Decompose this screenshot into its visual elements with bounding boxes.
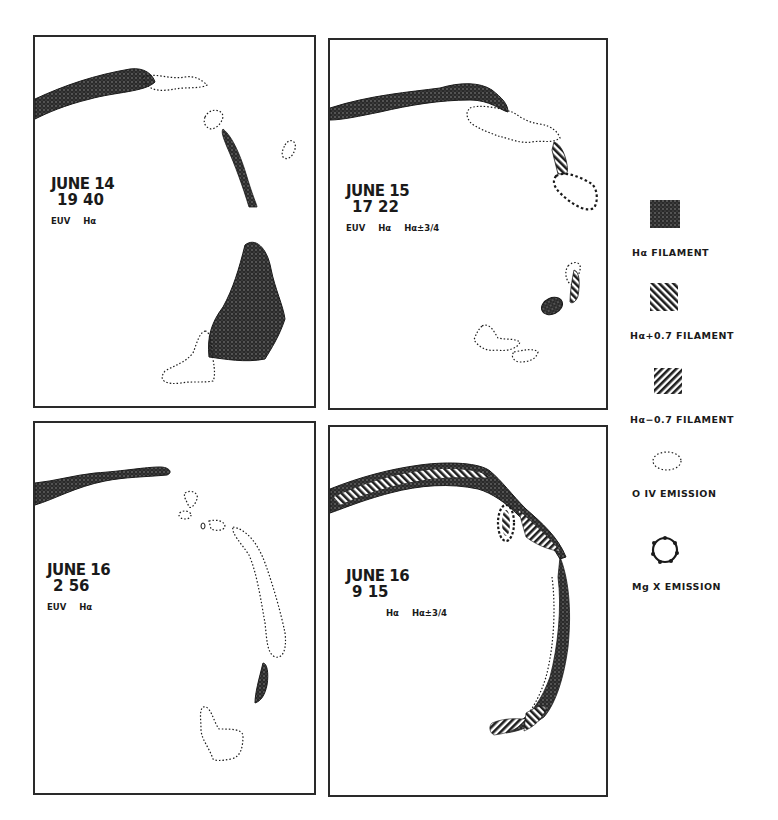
oiv-emission (162, 331, 214, 384)
panel-observations: EUV Hα Hα±3/4 (346, 224, 439, 233)
legend-swatch-halpha-filament (650, 200, 680, 228)
legend-label: Hα+0.7 FILAMENT (630, 330, 734, 341)
panel-time: 2 56 (47, 579, 110, 595)
halpha-filament (35, 69, 155, 119)
panel-june14-1940: JUNE 14 19 40 EUV Hα (33, 35, 316, 408)
oiv-emission (512, 350, 538, 362)
halpha-plus-filament (552, 142, 568, 174)
halpha-filament (35, 467, 170, 505)
legend-swatch-halpha-minus-filament (654, 368, 682, 394)
oiv-emission (179, 511, 191, 519)
mgx-emission (554, 174, 597, 209)
legend-swatch-oiv-emission (650, 448, 684, 474)
halpha-plus-filament (502, 510, 510, 536)
panel-june15-1722: JUNE 15 17 22 EUV Hα Hα±3/4 (328, 38, 608, 410)
panel-time: 19 40 (51, 193, 114, 209)
panel-time: 17 22 (346, 200, 439, 216)
panel-observations: EUV Hα (47, 603, 110, 612)
legend-swatch-halpha-plus-filament (650, 283, 678, 311)
halpha-filament-large (209, 242, 285, 360)
oiv-emission (282, 141, 295, 159)
legend-label: Hα FILAMENT (632, 247, 709, 258)
panel-time: 9 15 (346, 585, 447, 601)
panel-label: JUNE 16 2 56 EUV Hα (47, 563, 110, 611)
halpha-filament (330, 84, 508, 120)
panel-label: JUNE 15 17 22 EUV Hα Hα±3/4 (346, 184, 439, 232)
legend-label: Mg X EMISSION (632, 581, 721, 592)
halpha-filament (222, 129, 257, 207)
oiv-emission (184, 491, 197, 507)
legend-label: Hα−0.7 FILAMENT (630, 414, 734, 425)
panel-june16-0915: JUNE 16 9 15 Hα Hα±3/4 (328, 425, 608, 797)
legend-swatch-mgx-emission (648, 533, 682, 567)
oiv-emission (201, 707, 244, 761)
oiv-emission (201, 523, 205, 529)
legend-label: O IV EMISSION (632, 488, 716, 499)
panel-observations: Hα Hα±3/4 (346, 609, 447, 618)
oiv-emission (209, 520, 225, 530)
oiv-emission (474, 325, 520, 350)
halpha-plus-filament (524, 706, 546, 731)
panel-june16-0256: JUNE 16 2 56 EUV Hα (33, 421, 316, 795)
halpha-filament (330, 463, 566, 559)
halpha-filament (539, 294, 566, 318)
oiv-emission (467, 106, 560, 142)
panel-observations: EUV Hα (51, 217, 114, 226)
oiv-emission (204, 110, 223, 129)
halpha-plus-filament (570, 270, 579, 303)
halpha-minus-filament (518, 509, 560, 551)
panel-label: JUNE 16 9 15 Hα Hα±3/4 (346, 569, 447, 617)
halpha-filament (255, 663, 268, 703)
panel-label: JUNE 14 19 40 EUV Hα (51, 177, 114, 225)
oiv-emission (233, 527, 286, 657)
